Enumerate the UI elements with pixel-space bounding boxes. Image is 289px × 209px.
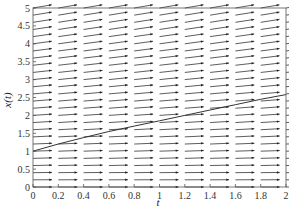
svg-text:0.5: 0.5 (18, 164, 31, 175)
svg-text:1.6: 1.6 (229, 190, 242, 201)
svg-text:1.4: 1.4 (204, 190, 217, 201)
svg-text:1: 1 (25, 146, 30, 157)
y-axis-label: x(t) (1, 92, 14, 109)
svg-text:0: 0 (25, 182, 30, 193)
svg-text:0: 0 (31, 190, 36, 201)
svg-text:1.8: 1.8 (254, 190, 267, 201)
svg-text:5: 5 (25, 3, 30, 14)
solution-curve (33, 95, 286, 152)
svg-text:0.2: 0.2 (52, 190, 65, 201)
svg-text:4: 4 (25, 38, 30, 49)
svg-text:1.5: 1.5 (18, 128, 31, 139)
svg-text:4.5: 4.5 (18, 20, 31, 31)
direction-field (33, 4, 289, 188)
svg-text:1.2: 1.2 (179, 190, 192, 201)
svg-text:0.4: 0.4 (77, 190, 90, 201)
svg-text:3.5: 3.5 (18, 56, 31, 67)
svg-text:0.8: 0.8 (128, 190, 141, 201)
direction-field-chart: 00.20.40.60.811.21.41.61.82 00.511.522.5… (0, 0, 289, 209)
svg-text:3: 3 (25, 74, 30, 85)
svg-text:2: 2 (284, 190, 289, 201)
svg-text:2: 2 (25, 110, 30, 121)
svg-text:2.5: 2.5 (18, 92, 31, 103)
svg-text:0.6: 0.6 (103, 190, 116, 201)
